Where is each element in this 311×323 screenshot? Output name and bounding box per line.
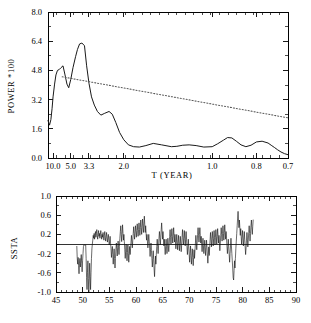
y-tick-label: -0.2	[38, 249, 51, 259]
x-tick-label: 5.0	[65, 161, 76, 171]
x-tick-label: 55	[105, 295, 114, 305]
x-tick-label: 1.0	[207, 161, 218, 171]
x-tick-label: 0.7	[283, 161, 294, 171]
y-tick-label: -1.0	[38, 287, 51, 297]
period-axis-title: T (YEAR)	[152, 170, 193, 180]
y-tick-label: 4.8	[31, 65, 42, 75]
plot-frame	[48, 12, 288, 158]
ssta-timeseries-panel: -1.0-0.6-0.20.20.61.04550556065707580859…	[38, 191, 301, 305]
x-tick-label: 60	[132, 295, 141, 305]
ssta-series-curve	[77, 211, 253, 292]
power-spectrum-panel: 0.01.63.24.86.48.010.05.03.32.01.00.80.7	[31, 7, 293, 171]
x-tick-label: 2.0	[118, 161, 129, 171]
y-tick-label: 6.4	[31, 36, 42, 46]
x-tick-label: 10.0	[46, 161, 61, 171]
figure-container: 0.01.63.24.86.48.010.05.03.32.01.00.80.7…	[0, 0, 311, 323]
y-tick-label: 3.2	[31, 95, 42, 105]
confidence-level-line	[62, 77, 288, 118]
y-tick-label: 1.6	[31, 124, 42, 134]
y-tick-label: 0.2	[40, 229, 51, 239]
x-tick-label: 75	[212, 295, 221, 305]
x-tick-label: 0.8	[251, 161, 262, 171]
x-tick-label: 90	[292, 295, 301, 305]
x-tick-label: 45	[52, 295, 61, 305]
x-tick-label: 70	[185, 295, 194, 305]
y-tick-label: 8.0	[31, 7, 42, 17]
x-tick-label: 80	[238, 295, 247, 305]
x-tick-label: 85	[265, 295, 274, 305]
y-tick-label: -0.6	[38, 268, 51, 278]
x-tick-label: 50	[78, 295, 87, 305]
y-tick-label: 0.6	[40, 210, 51, 220]
power-axis-title: POWER *100	[6, 59, 16, 114]
ssta-axis-title: SSTA	[9, 236, 19, 259]
y-tick-label: 1.0	[40, 191, 51, 201]
figure-svg: 0.01.63.24.86.48.010.05.03.32.01.00.80.7…	[0, 0, 311, 323]
y-tick-label: 0.0	[31, 153, 42, 163]
x-tick-label: 3.3	[84, 161, 95, 171]
x-tick-label: 65	[158, 295, 167, 305]
power-spectrum-curve	[48, 43, 288, 155]
